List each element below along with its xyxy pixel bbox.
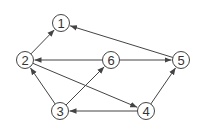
edges-group xyxy=(30,26,175,111)
node-label: 4 xyxy=(142,104,149,119)
node-label: 2 xyxy=(21,53,28,68)
edge-4-to-5 xyxy=(151,68,176,104)
node-label: 1 xyxy=(57,16,64,31)
node-label: 6 xyxy=(107,53,114,68)
edge-5-to-1 xyxy=(70,26,173,58)
node-3: 3 xyxy=(52,103,69,120)
node-1: 1 xyxy=(53,15,70,32)
node-5: 5 xyxy=(173,52,190,69)
edge-2-to-4 xyxy=(33,63,137,107)
node-6: 6 xyxy=(103,52,120,69)
node-label: 5 xyxy=(177,53,184,68)
node-label: 3 xyxy=(56,104,63,119)
edge-2-to-1 xyxy=(31,30,54,54)
edge-3-to-2 xyxy=(30,68,55,104)
node-2: 2 xyxy=(17,52,34,69)
directed-graph: 123456 xyxy=(0,0,201,130)
node-4: 4 xyxy=(138,103,155,120)
